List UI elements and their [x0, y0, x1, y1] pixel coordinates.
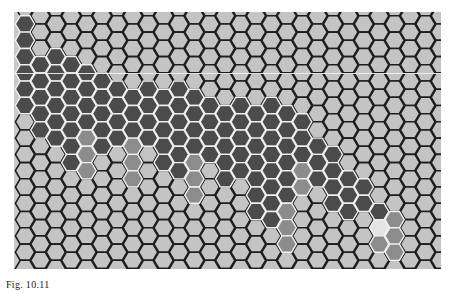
hex-cell-medium — [77, 163, 96, 179]
scan-artifact-line — [14, 73, 441, 74]
hex-grid — [14, 12, 441, 269]
hex-cell-medium — [385, 244, 404, 260]
hex-cell-dark — [15, 16, 34, 32]
hex-cell-medium — [277, 203, 296, 219]
hex-cell-dark — [354, 179, 373, 195]
hex-cell-medium — [185, 187, 204, 203]
hex-grid-figure — [14, 12, 441, 269]
hex-cell-medium — [185, 171, 204, 187]
hex-cell-dark — [293, 114, 312, 130]
hex-cell-medium — [385, 212, 404, 228]
hex-cell-medium — [277, 220, 296, 236]
hex-cell-medium — [123, 171, 142, 187]
figure-caption: Fig. 10.11 — [6, 279, 49, 290]
hex-cell-medium — [277, 236, 296, 252]
hex-cell-dark — [15, 32, 34, 48]
hex-cell-medium — [123, 154, 142, 170]
hex-cell-dark — [323, 146, 342, 162]
hex-cell-medium — [385, 228, 404, 244]
